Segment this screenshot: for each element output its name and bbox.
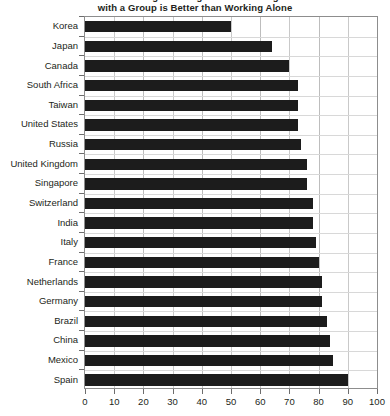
x-axis-label-50: 50 — [226, 396, 237, 407]
bar-india[interactable] — [85, 217, 313, 228]
x-tick-60 — [260, 389, 261, 394]
plot-area — [84, 16, 378, 389]
bar-germany[interactable] — [85, 296, 322, 307]
bar-row — [85, 80, 377, 91]
x-axis-label-30: 30 — [167, 396, 178, 407]
bar-brazil[interactable] — [85, 316, 327, 327]
y-axis-label-japan: Japan — [0, 40, 78, 51]
x-axis-label-60: 60 — [255, 396, 266, 407]
bar-russia[interactable] — [85, 139, 301, 150]
bar-korea[interactable] — [85, 21, 231, 32]
x-tick-90 — [348, 389, 349, 394]
y-axis-label-taiwan: Taiwan — [0, 99, 78, 110]
x-axis-label-100: 100 — [369, 396, 385, 407]
x-tick-10 — [114, 389, 115, 394]
bar-china[interactable] — [85, 335, 330, 346]
bar-japan[interactable] — [85, 41, 272, 52]
y-axis-label-spain: Spain — [0, 374, 78, 385]
y-axis-label-korea: Korea — [0, 20, 78, 31]
y-axis-label-brazil: Brazil — [0, 315, 78, 326]
bar-row — [85, 178, 377, 189]
bar-row — [85, 198, 377, 209]
bar-row — [85, 60, 377, 71]
x-tick-0 — [85, 389, 86, 394]
x-axis-label-40: 40 — [197, 396, 208, 407]
x-axis-label-20: 20 — [138, 396, 149, 407]
bar-row — [85, 139, 377, 150]
bar-row — [85, 217, 377, 228]
y-axis-label-russia: Russia — [0, 138, 78, 149]
x-axis-label-70: 70 — [284, 396, 295, 407]
y-axis-label-united-kingdom: United Kingdom — [0, 158, 78, 169]
bar-netherlands[interactable] — [85, 276, 322, 287]
bar-united-kingdom[interactable] — [85, 159, 307, 170]
bar-row — [85, 119, 377, 130]
y-axis-label-germany: Germany — [0, 295, 78, 306]
x-tick-80 — [319, 389, 320, 394]
x-tick-40 — [202, 389, 203, 394]
bar-row — [85, 21, 377, 32]
y-axis-label-france: France — [0, 256, 78, 267]
x-axis-label-80: 80 — [313, 396, 324, 407]
y-axis-label-mexico: Mexico — [0, 354, 78, 365]
y-axis-label-singapore: Singapore — [0, 177, 78, 188]
x-axis-label-0: 0 — [82, 396, 87, 407]
x-tick-100 — [377, 389, 378, 394]
y-axis-label-china: China — [0, 334, 78, 345]
bar-united-states[interactable] — [85, 119, 298, 130]
bar-switzerland[interactable] — [85, 198, 313, 209]
x-axis-label-90: 90 — [343, 396, 354, 407]
bar-row — [85, 335, 377, 346]
bar-row — [85, 276, 377, 287]
bar-south-africa[interactable] — [85, 80, 298, 91]
y-axis: KoreaJapanCanadaSouth AfricaTaiwanUnited… — [0, 16, 78, 389]
bar-row — [85, 257, 377, 268]
y-axis-label-india: India — [0, 217, 78, 228]
x-tick-20 — [143, 389, 144, 394]
chart-title: Percentage Who Agree that Working with a… — [0, 0, 390, 13]
bar-canada[interactable] — [85, 60, 289, 71]
y-axis-label-canada: Canada — [0, 60, 78, 71]
bar-italy[interactable] — [85, 237, 316, 248]
x-tick-50 — [231, 389, 232, 394]
bar-taiwan[interactable] — [85, 100, 298, 111]
bar-row — [85, 237, 377, 248]
bar-row — [85, 374, 377, 385]
x-axis: 0102030405060708090100 — [84, 389, 378, 416]
bar-row — [85, 296, 377, 307]
bar-row — [85, 100, 377, 111]
bar-row — [85, 41, 377, 52]
y-axis-label-south-africa: South Africa — [0, 79, 78, 90]
bar-singapore[interactable] — [85, 178, 307, 189]
bar-mexico[interactable] — [85, 355, 333, 366]
y-axis-label-switzerland: Switzerland — [0, 197, 78, 208]
bar-series — [85, 17, 377, 388]
bar-row — [85, 316, 377, 327]
x-axis-label-10: 10 — [109, 396, 120, 407]
y-axis-label-united-states: United States — [0, 118, 78, 129]
bar-row — [85, 355, 377, 366]
bar-spain[interactable] — [85, 374, 348, 385]
bar-france[interactable] — [85, 257, 319, 268]
bar-row — [85, 159, 377, 170]
bar-chart: Percentage Who Agree that Working with a… — [0, 0, 390, 416]
x-tick-70 — [289, 389, 290, 394]
y-axis-label-italy: Italy — [0, 236, 78, 247]
x-tick-30 — [173, 389, 174, 394]
y-axis-label-netherlands: Netherlands — [0, 276, 78, 287]
